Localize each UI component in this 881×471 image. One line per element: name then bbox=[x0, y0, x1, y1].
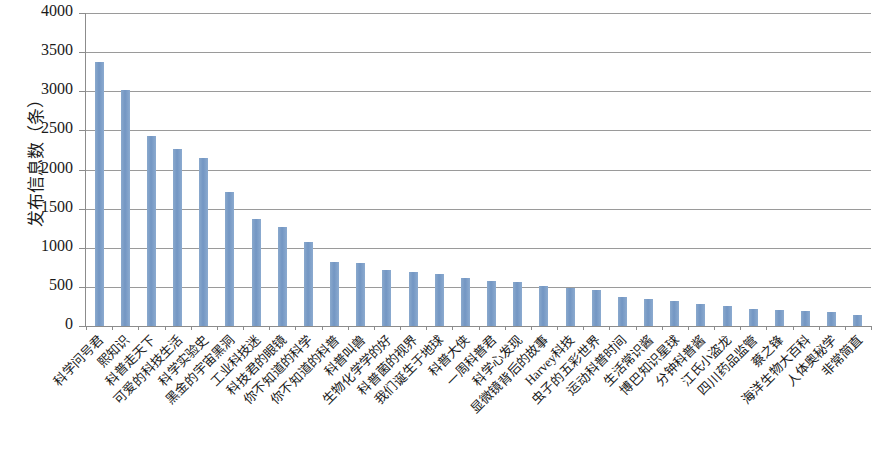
bar-chart: 发布信息数（条） 4000350030002500200015001000500… bbox=[0, 0, 881, 471]
bar bbox=[95, 62, 104, 326]
y-tick-mark bbox=[79, 130, 85, 131]
bar bbox=[356, 263, 365, 326]
bar bbox=[487, 281, 496, 326]
gridline bbox=[86, 130, 871, 131]
y-tick-mark bbox=[79, 209, 85, 210]
gridline bbox=[86, 91, 871, 92]
y-tick-label: 3500 bbox=[7, 41, 73, 59]
y-tick-label: 500 bbox=[7, 276, 73, 294]
bar bbox=[461, 278, 470, 327]
bar bbox=[225, 192, 234, 326]
bar bbox=[513, 282, 522, 326]
y-tick-label: 1000 bbox=[7, 237, 73, 255]
y-tick-mark bbox=[79, 248, 85, 249]
bar bbox=[304, 242, 313, 326]
bar bbox=[644, 299, 653, 326]
y-tick-label: 2500 bbox=[7, 119, 73, 137]
y-tick-label: 0 bbox=[7, 315, 73, 333]
bar bbox=[827, 312, 836, 326]
bar bbox=[278, 227, 287, 326]
bar bbox=[723, 306, 732, 326]
y-tick-label: 3000 bbox=[7, 80, 73, 98]
bar bbox=[853, 315, 862, 326]
y-tick-mark bbox=[79, 91, 85, 92]
bar bbox=[749, 309, 758, 326]
bar bbox=[566, 288, 575, 326]
y-tick-label: 4000 bbox=[7, 2, 73, 20]
bar bbox=[592, 290, 601, 326]
bar bbox=[775, 310, 784, 326]
bar bbox=[121, 90, 130, 326]
y-tick-mark bbox=[79, 326, 85, 327]
y-tick-mark bbox=[79, 287, 85, 288]
bar bbox=[435, 274, 444, 326]
y-tick-mark bbox=[79, 13, 85, 14]
bar bbox=[330, 262, 339, 326]
bar bbox=[147, 136, 156, 326]
bar bbox=[199, 158, 208, 326]
bar bbox=[618, 297, 627, 326]
gridline bbox=[86, 52, 871, 53]
bar bbox=[801, 311, 810, 326]
y-tick-label: 1500 bbox=[7, 198, 73, 216]
x-axis-category-labels: 科学问号君熙知识科普走天下可爱的科技生活科学实验史黑金的宇宙黑洞工业科技迷科技君… bbox=[85, 330, 881, 471]
y-tick-mark bbox=[79, 52, 85, 53]
y-tick-mark bbox=[79, 170, 85, 171]
gridline bbox=[86, 13, 871, 14]
bar bbox=[670, 301, 679, 326]
bar bbox=[252, 219, 261, 326]
bar bbox=[539, 286, 548, 326]
bar bbox=[696, 304, 705, 326]
plot-area bbox=[85, 13, 871, 327]
bar bbox=[409, 272, 418, 326]
bar bbox=[382, 270, 391, 326]
y-tick-label: 2000 bbox=[7, 159, 73, 177]
bar bbox=[173, 149, 182, 326]
